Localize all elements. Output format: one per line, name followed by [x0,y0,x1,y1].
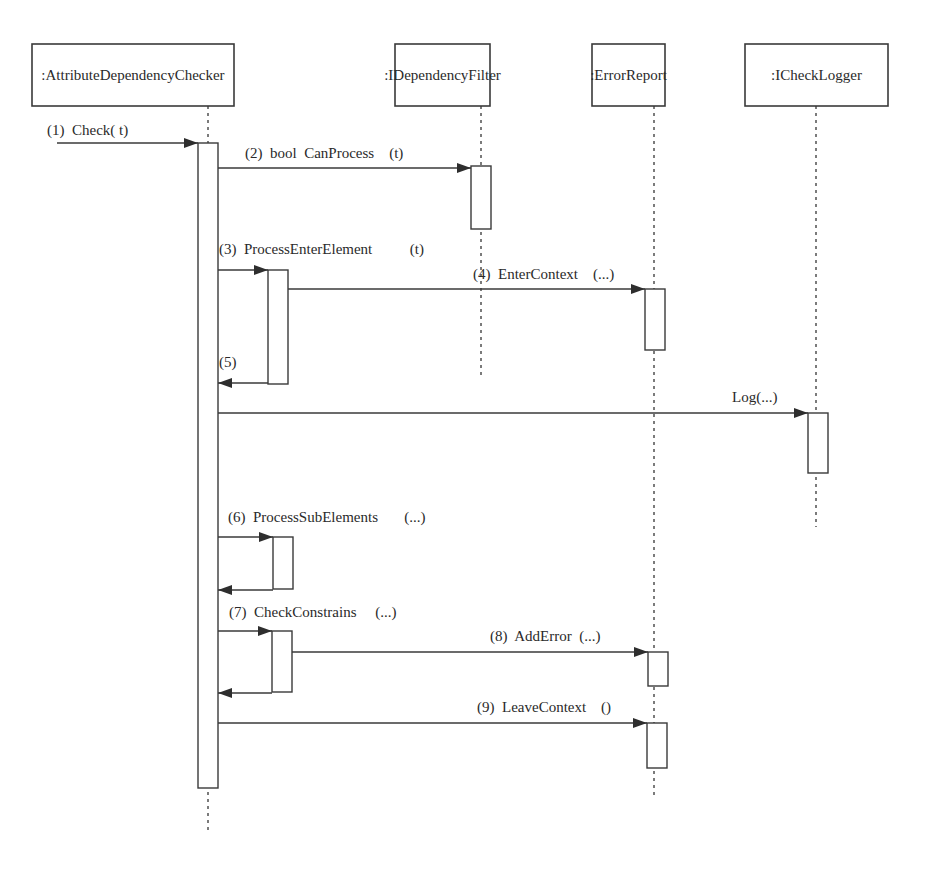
arrowhead-icon [633,718,647,728]
arrowhead-icon [457,163,471,173]
activation-bar-checker [268,270,288,384]
arrowhead-icon [218,585,232,595]
activation-bar-error [645,289,665,350]
activation-bar-filter [471,166,491,229]
message-label: (2) bool CanProcess (t) [245,145,403,162]
message-1: (1) Check( t) [47,122,198,148]
message-3: (3) ProcessEnterElement (t) [218,241,424,275]
message-label: (3) ProcessEnterElement (t) [219,241,424,258]
arrowhead-icon [794,408,808,418]
message-4: (4) EnterContext (...) [288,266,645,294]
message-6: (6) ProcessSubElements (...) [218,509,425,542]
message-label: (5) [219,354,237,371]
arrowhead-icon [218,378,232,388]
message-label: (8) AddError (...) [490,628,600,645]
message-label: (7) CheckConstrains (...) [229,604,396,621]
message-8: (8) AddError (...) [292,628,648,657]
object-logger: :ICheckLogger [745,44,888,106]
message-2: (2) bool CanProcess (t) [218,145,471,173]
message-label: (6) ProcessSubElements (...) [228,509,425,526]
object-label: :ICheckLogger [771,67,862,83]
arrowhead-icon [254,265,268,275]
messages: (1) Check( t)(2) bool CanProcess (t)(3) … [47,122,808,728]
object-label: :IDependencyFilter [384,67,501,83]
sequence-diagram: :AttributeDependencyChecker:IDependencyF… [0,0,932,871]
message-label: (1) Check( t) [47,122,128,139]
object-error: :ErrorReport [590,44,667,106]
object-label: :AttributeDependencyChecker [41,67,224,83]
activation-bar-logger [808,413,828,473]
message-7: (7) CheckConstrains (...) [218,604,396,636]
message-return-10 [218,688,272,698]
activation-bar-checker [198,143,218,788]
message-5: (5) [218,354,268,388]
activation-bar-checker [273,537,293,589]
message-label: (4) EnterContext (...) [473,266,614,283]
arrowhead-icon [634,647,648,657]
object-boxes: :AttributeDependencyChecker:IDependencyF… [32,44,888,106]
object-filter: :IDependencyFilter [384,44,501,106]
activation-bar-error [647,723,667,768]
message-label: (9) LeaveContext () [477,699,611,716]
activation-bars [198,143,828,788]
object-label: :ErrorReport [590,67,667,83]
message-label: Log(...) [732,389,777,406]
arrowhead-icon [259,532,273,542]
arrowhead-icon [218,688,232,698]
activation-bar-checker [272,631,292,692]
lifelines [208,106,816,833]
message-9: (9) LeaveContext () [218,699,647,728]
message-return-7 [218,585,273,595]
object-checker: :AttributeDependencyChecker [32,44,234,106]
activation-bar-error [648,652,668,686]
message-return-5: Log(...) [218,389,808,418]
arrowhead-icon [258,626,272,636]
arrowhead-icon [631,284,645,294]
arrowhead-icon [184,138,198,148]
